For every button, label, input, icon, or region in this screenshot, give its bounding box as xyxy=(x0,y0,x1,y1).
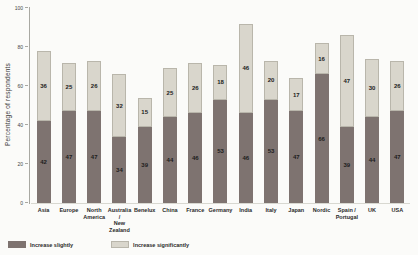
x-tick-label: Italy xyxy=(258,207,283,214)
segment-increase-significantly: 15 xyxy=(138,98,152,127)
x-tick-label: NorthAmerica xyxy=(82,207,107,220)
stacked-bar: 2547 xyxy=(62,63,76,203)
segment-value: 26 xyxy=(91,83,98,89)
segment-value: 44 xyxy=(369,157,376,163)
segment-value: 53 xyxy=(268,148,275,154)
bar-uk: 3044 xyxy=(359,8,384,203)
segment-value: 47 xyxy=(394,154,401,160)
segment-value: 53 xyxy=(217,148,224,154)
segment-value: 42 xyxy=(40,159,47,165)
segment-increase-slightly: 42 xyxy=(37,121,51,203)
segment-value: 34 xyxy=(116,167,123,173)
x-tick-label: France xyxy=(183,207,208,214)
bar-spain-portugal: 4739 xyxy=(334,8,359,203)
bar-australia-new-zealand: 3234 xyxy=(107,8,132,203)
segment-increase-slightly: 39 xyxy=(138,127,152,203)
segment-increase-significantly: 26 xyxy=(87,61,101,112)
x-tick-label: Nordic xyxy=(309,207,334,214)
segment-increase-slightly: 46 xyxy=(239,113,253,203)
segment-increase-slightly: 53 xyxy=(213,100,227,203)
segment-value: 20 xyxy=(268,77,275,83)
x-tick-label: UK xyxy=(359,207,384,214)
segment-increase-significantly: 30 xyxy=(365,59,379,118)
segment-increase-significantly: 46 xyxy=(239,24,253,114)
y-tick-mark xyxy=(25,46,28,47)
segment-increase-significantly: 26 xyxy=(188,63,202,114)
legend-label: Increase slightly xyxy=(30,242,73,248)
segment-increase-slightly: 47 xyxy=(87,111,101,203)
segment-value: 39 xyxy=(141,162,148,168)
y-tick-label: 60 xyxy=(3,83,23,89)
legend: Increase slightly Increase significantly xyxy=(8,241,189,248)
bar-europe: 2547 xyxy=(56,8,81,203)
segment-increase-significantly: 25 xyxy=(62,63,76,112)
segment-value: 16 xyxy=(318,56,325,62)
segment-value: 30 xyxy=(369,85,376,91)
legend-item-increase-slightly: Increase slightly xyxy=(8,241,73,248)
bar-usa: 2647 xyxy=(385,8,410,203)
segment-increase-significantly: 32 xyxy=(112,74,126,136)
stacked-bar: 4739 xyxy=(340,35,354,203)
stacked-bar: 1666 xyxy=(315,43,329,203)
x-tick-label: Asia xyxy=(31,207,56,214)
legend-swatch-significantly xyxy=(111,241,129,248)
y-tick-mark xyxy=(25,163,28,164)
segment-value: 25 xyxy=(167,90,174,96)
segment-increase-significantly: 47 xyxy=(340,35,354,127)
x-axis-labels: AsiaEuropeNorthAmericaAustralia /New Zea… xyxy=(31,207,410,233)
legend-swatch-slightly xyxy=(8,241,26,248)
segment-value: 32 xyxy=(116,103,123,109)
stacked-bar: 2647 xyxy=(390,61,404,203)
segment-increase-slightly: 44 xyxy=(365,117,379,203)
stacked-bar: 2544 xyxy=(163,68,177,203)
stacked-bar: 2647 xyxy=(87,61,101,203)
segment-value: 26 xyxy=(192,85,199,91)
x-tick-label: USA xyxy=(385,207,410,214)
segment-increase-significantly: 26 xyxy=(390,61,404,112)
stacked-bar: 1539 xyxy=(138,98,152,203)
stacked-bar: 2053 xyxy=(264,61,278,203)
stacked-bar: 3234 xyxy=(112,74,126,203)
y-tick-label: 20 xyxy=(3,161,23,167)
segment-increase-significantly: 25 xyxy=(163,68,177,117)
bar-nordic: 1666 xyxy=(309,8,334,203)
y-tick-mark xyxy=(25,124,28,125)
x-tick-label: Australia /New Zealand xyxy=(107,207,132,233)
y-tick-label: 40 xyxy=(3,122,23,128)
y-tick-mark xyxy=(25,202,28,203)
segment-value: 47 xyxy=(91,154,98,160)
segment-value: 47 xyxy=(343,78,350,84)
segment-increase-significantly: 17 xyxy=(289,78,303,111)
segment-value: 44 xyxy=(167,157,174,163)
x-tick-label: Spain /Portugal xyxy=(334,207,359,220)
y-tick-mark xyxy=(25,85,28,86)
segment-value: 66 xyxy=(318,136,325,142)
bar-benelux: 1539 xyxy=(132,8,157,203)
segment-increase-slightly: 44 xyxy=(163,117,177,203)
segment-increase-slightly: 66 xyxy=(315,74,329,203)
bar-north-america: 2647 xyxy=(82,8,107,203)
x-tick-label: China xyxy=(157,207,182,214)
segment-increase-significantly: 16 xyxy=(315,43,329,74)
segment-increase-slightly: 34 xyxy=(112,137,126,203)
legend-label: Increase significantly xyxy=(133,242,189,248)
bar-germany: 1853 xyxy=(208,8,233,203)
segment-increase-slightly: 47 xyxy=(390,111,404,203)
stacked-bar: 3044 xyxy=(365,59,379,203)
stacked-bar: 2646 xyxy=(188,63,202,203)
segment-increase-slightly: 39 xyxy=(340,127,354,203)
bar-asia: 3642 xyxy=(31,8,56,203)
segment-increase-significantly: 18 xyxy=(213,65,227,100)
bar-japan: 1747 xyxy=(284,8,309,203)
y-tick-label: 0 xyxy=(3,200,23,206)
chart: Percentage of respondents 020406080100 3… xyxy=(0,0,418,255)
x-tick-label: Benelux xyxy=(132,207,157,214)
bar-france: 2646 xyxy=(183,8,208,203)
y-tick-label: 100 xyxy=(3,5,23,11)
y-tick-label: 80 xyxy=(3,44,23,50)
legend-item-increase-significantly: Increase significantly xyxy=(111,241,189,248)
plot-area: 3642254726473234153925442646185346462053… xyxy=(31,8,410,204)
segment-value: 39 xyxy=(343,162,350,168)
segment-increase-slightly: 47 xyxy=(289,111,303,203)
segment-increase-slightly: 47 xyxy=(62,111,76,203)
